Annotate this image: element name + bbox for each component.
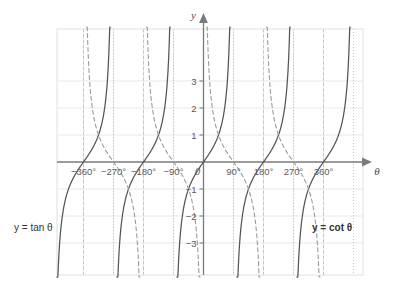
tangent-cotangent-plot: −360°−270°−180°−90°90°180°270°360°321−1−… xyxy=(0,0,406,298)
y-tick-label: 1 xyxy=(191,130,196,141)
x-tick-label: −270° xyxy=(101,166,126,177)
y-tick-label: −1 xyxy=(186,184,197,195)
tick-labels-layer: −360°−270°−180°−90°90°180°270°360°321−1−… xyxy=(71,9,380,249)
x-axis-label: θ xyxy=(374,165,380,177)
y-tick-label: −2 xyxy=(186,211,197,222)
x-tick-label: −180° xyxy=(131,166,156,177)
x-tick-label: −90° xyxy=(164,166,184,177)
x-tick-label: −360° xyxy=(71,166,96,177)
y-tick-label: 2 xyxy=(191,103,196,114)
y-axis-arrowhead xyxy=(199,13,208,23)
asymptote-lines-layer xyxy=(84,29,354,275)
x-tick-label: 360° xyxy=(314,166,334,177)
y-axis-label: y xyxy=(190,9,196,21)
tangent-curve-label: y = tan θ xyxy=(14,222,53,233)
trigonometric-graph-figure: −360°−270°−180°−90°90°180°270°360°321−1−… xyxy=(0,0,406,298)
y-tick-label: 3 xyxy=(191,76,196,87)
origin-label: 0 xyxy=(195,166,201,177)
x-tick-label: 270° xyxy=(284,166,304,177)
x-axis-arrowhead xyxy=(362,158,372,167)
x-tick-label: 90° xyxy=(226,166,241,177)
cotangent-curve-label: y = cot θ xyxy=(312,222,352,233)
x-tick-label: 180° xyxy=(254,166,274,177)
y-tick-label: −3 xyxy=(186,238,197,249)
